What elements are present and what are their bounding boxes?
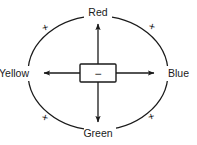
plus-sign-bottom-right: + [146,110,155,123]
plus-sign-top-right: + [147,20,156,33]
center-minus-sign: − [94,67,101,81]
axis-label-yellow: Yellow [0,67,29,79]
axis-label-green: Green [83,127,112,139]
plus-sign-bottom-left: + [40,111,49,124]
color-opponency-diagram: − Red Blue Green Yellow + + + + [0,0,197,145]
axis-label-red: Red [88,6,107,18]
diagram-canvas: − Red Blue Green Yellow + + + + [0,0,197,145]
plus-sign-top-left: + [40,21,49,34]
axis-label-blue: Blue [168,67,189,79]
